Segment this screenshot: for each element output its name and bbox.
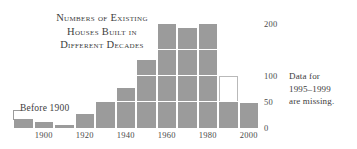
bar-fill [219,102,238,128]
x-axis-tick-label: 1900 [35,130,53,140]
bar-fill [55,125,74,128]
bar-fill [158,24,177,128]
bar-fill [35,122,54,128]
y-axis-tick-label: 100 [264,71,277,81]
bar [199,16,218,128]
bar [117,16,136,128]
bar-fill [14,119,33,128]
bar-fill [240,103,259,128]
x-axis-tick-label: 2000 [240,130,258,140]
bar [96,16,115,128]
bar-missing-segment [219,76,238,102]
bar-fill [137,60,156,128]
bar [158,16,177,128]
bar-fill [96,101,115,128]
x-axis-tick-label: 1940 [117,130,135,140]
x-axis-tick-label: 1960 [158,130,176,140]
bar [76,16,95,128]
bar-fill [178,28,197,128]
bar-chart: Numbers of Existing Houses Built in Diff… [0,0,357,149]
x-axis-tick-label: 1980 [199,130,217,140]
bar [137,16,156,128]
bar-fill [117,88,136,128]
missing-data-note: Data for 1995–1999 are missing. [289,70,334,108]
y-axis-tick-label: 0 [264,123,268,133]
y-axis-tick-label: 50 [264,97,273,107]
x-axis-tick-label: 1920 [76,130,94,140]
bar-fill [199,24,218,128]
bar [178,16,197,128]
x-axis-labels: 190019201940196019802000 [14,130,258,144]
bar-fill [76,114,95,128]
before-1900-callout: Before 1900 [20,103,69,113]
bar [219,16,238,128]
bar [240,16,259,128]
y-axis-tick-label: 200 [264,19,277,29]
